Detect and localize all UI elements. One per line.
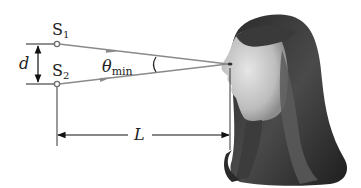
light-rays [59, 44, 228, 84]
angle-arc [154, 57, 157, 72]
label-L-text: L [134, 125, 145, 144]
label-s1-sub: 1 [63, 29, 69, 40]
label-theta: θ [102, 57, 112, 76]
ray-s2 [59, 64, 228, 84]
label-d: d [19, 56, 29, 72]
source-s2 [54, 81, 59, 86]
label-s2-letter: S [52, 61, 63, 80]
separation-dimension [26, 44, 54, 84]
observer-photo [221, 15, 347, 186]
label-theta-sub: min [112, 65, 133, 78]
label-s1: S1 [52, 22, 69, 40]
label-L: L [134, 127, 145, 143]
label-s2: S2 [52, 63, 69, 81]
label-d-text: d [19, 54, 29, 73]
ray-s1 [59, 44, 228, 64]
eye [228, 63, 233, 66]
label-s1-letter: S [52, 20, 63, 39]
label-theta-min: θmin [102, 59, 133, 77]
resolution-diagram: S1 S2 d θmin L [0, 0, 361, 188]
source-s1 [54, 41, 59, 46]
ray-s2-arrow [100, 77, 111, 82]
label-s2-sub: 2 [63, 70, 69, 81]
